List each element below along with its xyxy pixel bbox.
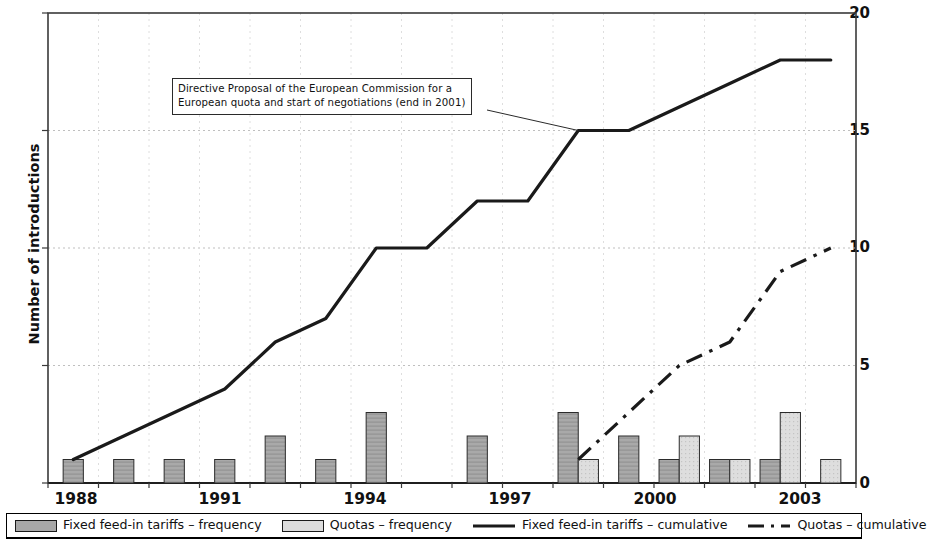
legend-item-quotas-frequency[interactable]: Quotas – frequency [282,519,452,532]
legend-swatch-light-bar-icon [282,520,324,532]
annotation-callout: Directive Proposal of the European Commi… [172,78,472,115]
bar-series-group [63,413,841,484]
chart-legend: Fixed feed-in tariffs – frequency Quotas… [6,513,862,539]
legend-item-quotas-cumulative[interactable]: Quotas – cumulative [747,519,926,532]
legend-label-quotas-frequency: Quotas – frequency [330,519,452,532]
legend-label-quotas-cumulative: Quotas – cumulative [797,519,926,532]
legend-swatch-solid-line-icon [472,520,516,532]
legend-label-fixed-frequency: Fixed feed-in tariffs – frequency [63,519,262,532]
annotation-leader-line [487,110,578,131]
legend-item-fixed-frequency[interactable]: Fixed feed-in tariffs – frequency [15,519,262,532]
annotation-line-2: European quota and start of negotiations… [178,96,466,110]
legend-swatch-dark-bar-icon [15,520,57,532]
annotation-line-1: Directive Proposal of the European Commi… [178,82,466,96]
legend-item-fixed-cumulative[interactable]: Fixed feed-in tariffs – cumulative [472,519,727,532]
legend-swatch-dashdot-line-icon [747,520,791,532]
legend-label-fixed-cumulative: Fixed feed-in tariffs – cumulative [522,519,727,532]
